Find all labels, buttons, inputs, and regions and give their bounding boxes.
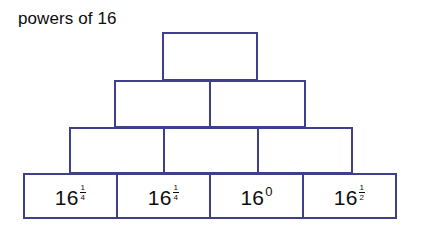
pyramid-cell-r4c1-base: 16 <box>55 187 79 208</box>
pyramid-cell-r3c2[interactable] <box>163 127 259 174</box>
pyramid-cell-r4c3-label: 16 0 <box>240 187 272 208</box>
pyramid-cell-r4c3-base: 16 <box>240 187 264 208</box>
pyramid-cell-r4c4[interactable]: 16 1 2 <box>302 173 397 219</box>
pyramid-cell-r1c1[interactable] <box>162 32 258 81</box>
pyramid-cell-r4c1-label: 16 1 4 <box>55 187 86 208</box>
figure-title: powers of 16 <box>18 8 117 30</box>
pyramid-cell-r4c2-exponent-denominator: 4 <box>173 193 180 202</box>
pyramid-cell-r2c1[interactable] <box>114 80 211 128</box>
pyramid-cell-r4c4-label: 16 1 2 <box>334 187 365 208</box>
pyramid-cell-r4c2-base: 16 <box>148 187 172 208</box>
pyramid-cell-r4c1[interactable]: 16 1 4 <box>23 173 118 219</box>
pyramid-cell-r2c2[interactable] <box>209 80 306 128</box>
pyramid-row-2 <box>114 80 306 128</box>
pyramid-cell-r4c1-exponent-denominator: 4 <box>80 193 87 202</box>
pyramid-cell-r4c1-exponent: 1 4 <box>80 184 87 202</box>
pyramid-row-4: 16 1 4 16 1 4 16 0 <box>23 173 399 219</box>
pyramid-cell-r4c4-exponent: 1 2 <box>359 184 366 202</box>
pyramid-row-1 <box>162 32 258 81</box>
pyramid-cell-r4c4-base: 16 <box>334 187 358 208</box>
powers-of-16-pyramid-figure: powers of 16 16 1 <box>0 0 422 237</box>
pyramid-cell-r3c3[interactable] <box>257 127 353 174</box>
pyramid-cell-r3c1[interactable] <box>69 127 165 174</box>
pyramid-cell-r4c4-exponent-denominator: 2 <box>359 193 366 202</box>
pyramid-cell-r4c3-exponent: 0 <box>265 185 272 198</box>
pyramid-cell-r4c2-label: 16 1 4 <box>148 187 179 208</box>
pyramid-row-3 <box>69 127 353 174</box>
pyramid-cell-r4c3[interactable]: 16 0 <box>209 173 304 219</box>
pyramid-cell-r4c2-exponent: 1 4 <box>173 184 180 202</box>
pyramid-cell-r4c2[interactable]: 16 1 4 <box>116 173 211 219</box>
